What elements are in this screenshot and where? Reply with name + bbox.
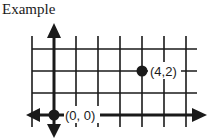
arrow-up-icon xyxy=(47,23,61,38)
point-origin xyxy=(49,110,60,121)
point-4-2 xyxy=(137,66,148,77)
label-origin: (0, 0) xyxy=(65,108,95,123)
arrow-down-icon xyxy=(47,124,61,138)
coordinate-grid: (0, 0) (4,2) xyxy=(0,0,210,140)
arrow-right-icon xyxy=(192,108,207,122)
arrow-left-icon xyxy=(26,108,40,122)
label-4-2: (4,2) xyxy=(150,64,177,79)
